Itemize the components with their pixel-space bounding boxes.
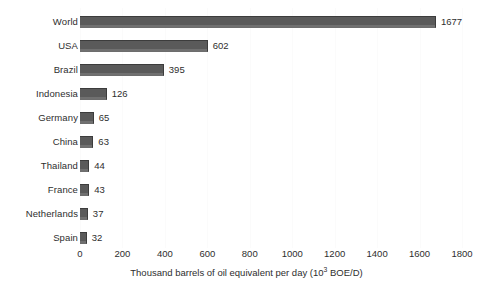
value-label: 1677: [436, 10, 462, 34]
category-label: Spain: [53, 226, 78, 250]
bar-chart: World1677USA602Brazil395Indonesia126Germ…: [0, 0, 493, 300]
bar: [80, 40, 208, 52]
bar-row: Brazil395: [0, 58, 493, 82]
bar: [80, 16, 436, 28]
x-axis-title: Thousand barrels of oil equivalent per d…: [0, 267, 493, 278]
bar: [80, 160, 89, 172]
bar-fill: [80, 88, 107, 100]
category-label: Thailand: [41, 154, 78, 178]
x-tick-label: 0: [77, 248, 82, 259]
bar-row: Thailand44: [0, 154, 493, 178]
bar-fill: [80, 112, 94, 124]
bar-row: Netherlands37: [0, 202, 493, 226]
bar: [80, 88, 107, 100]
value-label: 32: [87, 226, 103, 250]
category-label: France: [48, 178, 78, 202]
value-label: 63: [93, 130, 109, 154]
bar-fill: [80, 40, 208, 52]
x-tick-label: 1200: [324, 248, 345, 259]
bar-fill: [80, 16, 436, 28]
x-tick-label: 800: [242, 248, 258, 259]
x-tick-label: 200: [115, 248, 131, 259]
bar: [80, 184, 89, 196]
value-label: 65: [94, 106, 110, 130]
category-label: China: [53, 130, 78, 154]
value-label: 602: [208, 34, 229, 58]
value-label: 43: [89, 178, 105, 202]
category-label: Brazil: [54, 58, 78, 82]
bar: [80, 136, 93, 148]
value-label: 395: [164, 58, 185, 82]
bar-row: Indonesia126: [0, 82, 493, 106]
x-tick-label: 1000: [282, 248, 303, 259]
bar-row: Germany65: [0, 106, 493, 130]
bar-row: World1677: [0, 10, 493, 34]
x-axis-title-text: Thousand barrels of oil equivalent per d…: [130, 267, 323, 278]
bar-row: France43: [0, 178, 493, 202]
bar: [80, 208, 88, 220]
bar-row: USA602: [0, 34, 493, 58]
x-tick-label: 1800: [451, 248, 472, 259]
bar-fill: [80, 232, 87, 244]
x-tick-label: 400: [157, 248, 173, 259]
category-label: Netherlands: [26, 202, 78, 226]
x-tick-label: 1400: [367, 248, 388, 259]
value-label: 44: [89, 154, 105, 178]
value-label: 126: [107, 82, 128, 106]
value-label: 37: [88, 202, 104, 226]
bar-row: China63: [0, 130, 493, 154]
bar-rows: World1677USA602Brazil395Indonesia126Germ…: [0, 10, 493, 250]
x-tick-label: 600: [199, 248, 215, 259]
bar-fill: [80, 136, 93, 148]
x-tick-label: 1600: [409, 248, 430, 259]
category-label: Germany: [38, 106, 78, 130]
category-label: World: [53, 10, 78, 34]
bar: [80, 232, 87, 244]
x-axis-title-tail: BOE/D): [327, 267, 362, 278]
category-label: USA: [58, 34, 78, 58]
bar: [80, 64, 164, 76]
bar: [80, 112, 94, 124]
bar-fill: [80, 184, 89, 196]
bar-fill: [80, 64, 164, 76]
bar-fill: [80, 160, 89, 172]
bar-fill: [80, 208, 88, 220]
x-axis-ticks: 020040060080010001200140016001800: [0, 248, 493, 264]
bar-row: Spain32: [0, 226, 493, 250]
category-label: Indonesia: [36, 82, 78, 106]
